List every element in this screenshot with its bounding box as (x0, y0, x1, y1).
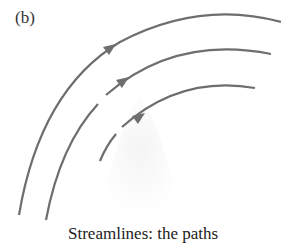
streamline-middle (46, 104, 98, 220)
streamline-middle-upper (106, 49, 271, 95)
panel-label: (b) (15, 8, 35, 28)
figure-caption: Streamlines: the paths (68, 224, 218, 244)
streamline-inner (100, 134, 116, 161)
streamlines-diagram (0, 0, 281, 247)
